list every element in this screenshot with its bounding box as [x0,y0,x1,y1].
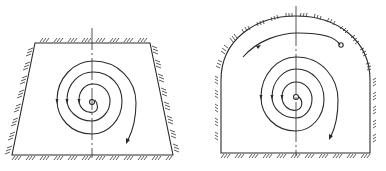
diagram-stage [0,0,386,171]
arch-figure [215,6,376,158]
arrow-icon [66,99,69,104]
left-wall-hatching [5,48,33,154]
arch-hatching [215,13,376,158]
arch-outline [221,16,370,153]
arrow-icon [78,99,81,104]
outer-arc [243,33,340,57]
arrow-icon [260,95,263,100]
spiral-path [57,61,136,140]
top-hatching [40,38,147,42]
arrow-icon [271,95,274,100]
right-wall-hatching [152,46,179,152]
trapezoid-figure [5,28,179,160]
arrow-icon [56,99,59,104]
arrow-icon [281,95,284,100]
